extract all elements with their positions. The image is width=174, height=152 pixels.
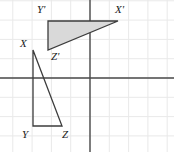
triangle-x-prime-y-prime-z-prime (48, 21, 118, 50)
label-y-prime: Y' (37, 4, 45, 15)
label-z-prime: Z' (51, 51, 59, 62)
shapes-layer (33, 21, 118, 126)
label-x-prime: X' (115, 4, 124, 15)
label-y: Y (22, 129, 28, 140)
label-x: X (20, 38, 27, 49)
label-z: Z (62, 129, 68, 140)
coordinate-plane-figure: Y'X'Z'XYZ (0, 0, 174, 152)
